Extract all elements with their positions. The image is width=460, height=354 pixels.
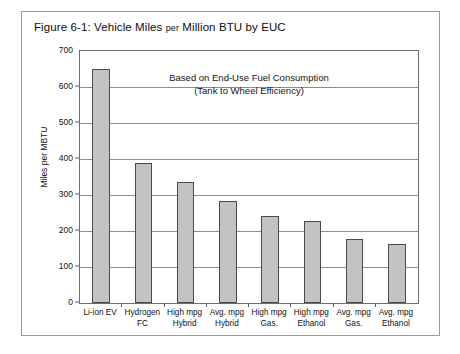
y-axis-tick-label: 400 xyxy=(39,154,73,163)
x-axis-tick-mark xyxy=(290,303,291,307)
bar[interactable] xyxy=(346,239,364,303)
x-axis-tick-mark xyxy=(164,303,165,307)
y-axis-tick-label: 100 xyxy=(39,262,73,271)
y-axis-tick-label: 0 xyxy=(39,298,73,307)
x-axis-tick-labels: Li-ion EVHydrogenFCHigh mpgHybridAvg. mp… xyxy=(79,308,419,338)
x-axis-tick-label: Avg. mpgEthanol xyxy=(370,308,422,329)
bar[interactable] xyxy=(219,201,237,303)
x-axis-tick-mark xyxy=(375,303,376,307)
figure-frame: Figure 6-1: Vehicle Miles per Million BT… xyxy=(21,11,440,336)
x-axis-tick-mark xyxy=(206,303,207,307)
y-axis-tick-label: 300 xyxy=(39,190,73,199)
y-axis-tick-label: 700 xyxy=(39,46,73,55)
x-axis-tick-mark xyxy=(248,303,249,307)
y-axis-tick-label: 600 xyxy=(39,82,73,91)
bars-layer xyxy=(80,51,418,303)
bar[interactable] xyxy=(92,69,110,303)
x-axis-tick-mark xyxy=(333,303,334,307)
bar[interactable] xyxy=(388,244,406,303)
bar-chart: Miles per MBTU 0100200300400500600700 Ba… xyxy=(22,12,441,337)
bar[interactable] xyxy=(261,216,279,303)
x-axis-tick-mark xyxy=(121,303,122,307)
bar[interactable] xyxy=(304,221,322,303)
bar[interactable] xyxy=(135,163,153,303)
x-axis-tick-label-line: Avg. mpg xyxy=(370,308,422,319)
plot-area: Based on End-Use Fuel Consumption (Tank … xyxy=(79,50,419,304)
y-axis-tick-label: 500 xyxy=(39,118,73,127)
y-axis-tick-label: 200 xyxy=(39,226,73,235)
x-axis-tick-label-line: Ethanol xyxy=(370,319,422,330)
bar[interactable] xyxy=(177,182,195,303)
